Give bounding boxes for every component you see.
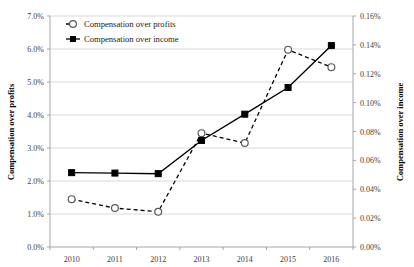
- chart-container: 0.0%1.0%2.0%3.0%4.0%5.0%6.0%7.0% 0.00%0.…: [0, 0, 414, 267]
- data-point-marker: [112, 205, 119, 212]
- left-tick-label: 3.0%: [27, 144, 44, 153]
- data-point-marker: [285, 84, 291, 90]
- left-tick-label: 2.0%: [27, 177, 44, 186]
- x-tick-label: 2010: [64, 255, 80, 264]
- right-axis-title: Compensation over income: [395, 83, 405, 182]
- left-tick-label: 4.0%: [27, 111, 44, 120]
- line-chart: 0.0%1.0%2.0%3.0%4.0%5.0%6.0%7.0% 0.00%0.…: [0, 0, 414, 267]
- data-point-marker: [155, 208, 162, 215]
- right-tick-label: 0.16%: [360, 12, 381, 21]
- data-point-marker: [328, 43, 334, 49]
- data-point-marker: [328, 64, 335, 71]
- left-tick-label: 1.0%: [27, 210, 44, 219]
- legend-marker-circle-icon: [70, 21, 77, 28]
- data-point-marker: [68, 196, 75, 203]
- data-point-marker: [198, 130, 205, 137]
- x-tick-label: 2012: [150, 255, 166, 264]
- data-point-marker: [199, 137, 205, 143]
- data-point-marker: [242, 111, 248, 117]
- right-tick-label: 0.02%: [360, 214, 381, 223]
- x-tick-label: 2013: [194, 255, 210, 264]
- legend-marker-square-icon: [70, 36, 76, 42]
- data-point-marker: [285, 46, 292, 53]
- x-tick-label: 2015: [280, 255, 296, 264]
- left-tick-label: 6.0%: [27, 45, 44, 54]
- x-tick-label: 2014: [237, 255, 253, 264]
- left-tick-label: 0.0%: [27, 243, 44, 252]
- left-axis-title: Compensation over profits: [6, 83, 16, 180]
- right-tick-label: 0.08%: [360, 128, 381, 137]
- x-tick-label: 2016: [323, 255, 339, 264]
- legend-label-2: Compensation over income: [84, 34, 179, 44]
- right-axis-tick-labels: 0.00%0.02%0.04%0.06%0.08%0.10%0.12%0.14%…: [360, 12, 381, 252]
- chart-background: [0, 0, 414, 267]
- right-tick-label: 0.12%: [360, 70, 381, 79]
- left-tick-label: 5.0%: [27, 78, 44, 87]
- data-point-marker: [155, 171, 161, 177]
- right-tick-label: 0.00%: [360, 243, 381, 252]
- right-tick-label: 0.10%: [360, 99, 381, 108]
- left-tick-label: 7.0%: [27, 12, 44, 21]
- data-point-marker: [69, 170, 75, 176]
- data-point-marker: [241, 140, 248, 147]
- right-tick-label: 0.14%: [360, 41, 381, 50]
- x-tick-label: 2011: [107, 255, 123, 264]
- right-tick-label: 0.06%: [360, 156, 381, 165]
- data-point-marker: [112, 170, 118, 176]
- legend-label-1: Compensation over profits: [84, 19, 176, 29]
- right-tick-label: 0.04%: [360, 185, 381, 194]
